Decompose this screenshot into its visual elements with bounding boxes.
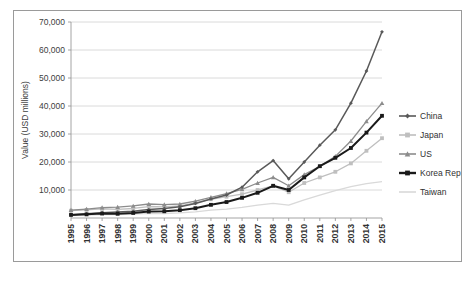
data-point-marker xyxy=(318,164,322,168)
data-point-marker xyxy=(256,191,260,195)
legend-marker-1 xyxy=(405,114,410,119)
data-point-marker xyxy=(365,149,369,153)
chart-legend: ChinaJapanUSKorea Rep. ofTaiwan xyxy=(399,111,461,197)
legend-label-2: Japan xyxy=(420,130,443,140)
x-tick-label: 2001 xyxy=(159,224,169,243)
legend-label-3: US xyxy=(420,149,432,159)
x-tick-label: 2000 xyxy=(144,224,154,243)
data-point-marker xyxy=(240,196,244,200)
series-line xyxy=(71,138,382,211)
legend-marker-2 xyxy=(405,133,410,138)
x-tick-label: 2004 xyxy=(206,224,216,243)
x-tick-label: 2003 xyxy=(190,224,200,243)
x-tick-label: 2014 xyxy=(361,224,371,243)
y-tick-label: 20,000 xyxy=(39,157,65,167)
data-point-marker xyxy=(178,208,182,212)
legend-label-5: Taiwan xyxy=(420,187,447,197)
y-tick-label: 60,000 xyxy=(39,45,65,55)
x-tick-label: 1999 xyxy=(128,224,138,243)
data-point-marker xyxy=(287,188,291,192)
legend-label-1: China xyxy=(420,111,442,121)
data-point-marker xyxy=(365,131,369,135)
series-line xyxy=(71,32,382,215)
y-tick-label: 50,000 xyxy=(39,73,65,83)
data-point-marker xyxy=(380,136,384,140)
data-point-marker xyxy=(85,212,89,216)
x-tick-label: 2008 xyxy=(268,224,278,243)
data-point-marker xyxy=(333,170,337,174)
x-tick-label: 2006 xyxy=(237,224,247,243)
y-tick-label: 70,000 xyxy=(39,17,65,27)
data-point-marker xyxy=(271,184,275,188)
y-tick-label: 30,000 xyxy=(39,129,65,139)
data-point-marker xyxy=(349,146,353,150)
x-tick-label: 1995 xyxy=(66,224,76,243)
data-point-marker xyxy=(147,210,151,214)
data-point-marker xyxy=(302,176,306,180)
data-point-marker xyxy=(69,213,73,217)
legend-label-4: Korea Rep. of xyxy=(420,168,461,178)
x-tick-label: 2010 xyxy=(299,224,309,243)
y-tick-label: 40,000 xyxy=(39,101,65,111)
x-tick-label: 2009 xyxy=(284,224,294,243)
x-tick-label: 2015 xyxy=(377,224,387,243)
x-tick-label: 2012 xyxy=(330,224,340,243)
y-tick-label: 10,000 xyxy=(39,185,65,195)
x-tick-label: 2007 xyxy=(253,224,263,243)
data-point-marker xyxy=(302,181,306,185)
data-point-marker xyxy=(100,212,104,216)
x-tick-label: 2005 xyxy=(222,224,232,243)
data-point-marker xyxy=(380,114,384,118)
x-tick-label: 2002 xyxy=(175,224,185,243)
x-tick-label: 1998 xyxy=(113,224,123,243)
data-point-marker xyxy=(162,209,166,213)
data-point-marker xyxy=(380,101,385,105)
series-china xyxy=(69,30,384,217)
line-chart: 70,00060,00050,00040,00030,00020,00010,0… xyxy=(14,11,461,261)
y-axis-title: Value (USD millions) xyxy=(20,81,30,159)
data-point-marker xyxy=(116,212,120,216)
chart-frame: 70,00060,00050,00040,00030,00020,00010,0… xyxy=(13,10,462,262)
data-point-marker xyxy=(349,162,353,166)
x-tick-label: 2013 xyxy=(346,224,356,243)
data-point-marker xyxy=(209,203,213,207)
data-point-marker xyxy=(240,192,244,196)
data-point-marker xyxy=(318,176,322,180)
legend-marker-4 xyxy=(405,171,410,176)
data-point-marker xyxy=(131,211,135,215)
data-point-marker xyxy=(194,206,198,210)
data-point-marker xyxy=(271,175,276,179)
x-tick-label: 1996 xyxy=(82,224,92,243)
x-tick-label: 2011 xyxy=(315,224,325,243)
x-tick-label: 1997 xyxy=(97,224,107,243)
data-point-marker xyxy=(333,156,337,160)
data-point-marker xyxy=(225,200,229,204)
